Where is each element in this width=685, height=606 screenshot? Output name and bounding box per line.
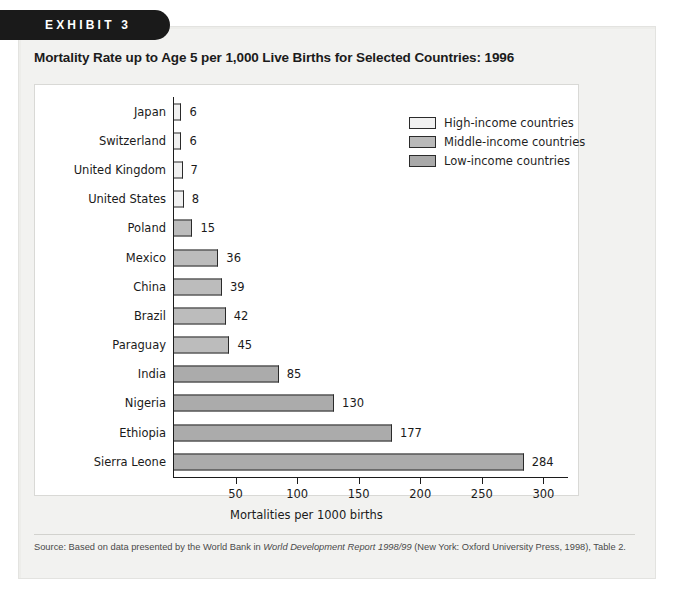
bar-row: United States8 bbox=[35, 185, 580, 214]
source-divider bbox=[34, 534, 635, 535]
bar-row: Brazil42 bbox=[35, 301, 580, 330]
bar bbox=[174, 278, 222, 295]
bar-category-label: Ethiopia bbox=[119, 426, 166, 440]
exhibit-banner: EXHIBIT 3 bbox=[0, 10, 170, 40]
bar-row: Paraguay45 bbox=[35, 331, 580, 360]
bar-row: Japan6 bbox=[35, 97, 580, 126]
bar bbox=[174, 424, 392, 441]
exhibit-page: EXHIBIT 3 Mortality Rate up to Age 5 per… bbox=[0, 0, 685, 606]
bar-category-label: Japan bbox=[134, 105, 166, 119]
bar-value-label: 6 bbox=[189, 134, 196, 148]
bar-value-label: 39 bbox=[230, 280, 245, 294]
x-axis-ticks: 50100150200250300 bbox=[35, 478, 580, 506]
bar-category-label: Switzerland bbox=[99, 134, 166, 148]
bar-row: India85 bbox=[35, 360, 580, 389]
source-prefix: Source: Based on data presented by the W… bbox=[34, 542, 263, 552]
bar-value-label: 15 bbox=[200, 221, 215, 235]
bar bbox=[174, 132, 181, 149]
bar-category-label: China bbox=[133, 280, 166, 294]
bar-category-label: Paraguay bbox=[112, 338, 166, 352]
x-tick-mark bbox=[236, 478, 237, 484]
bar bbox=[174, 191, 184, 208]
bar-category-label: United Kingdom bbox=[74, 163, 166, 177]
bar-value-label: 36 bbox=[226, 251, 241, 265]
bar-category-label: Nigeria bbox=[125, 396, 166, 410]
bar-row: Ethiopia177 bbox=[35, 418, 580, 447]
bar-value-label: 130 bbox=[342, 396, 364, 410]
bar-row: United Kingdom7 bbox=[35, 155, 580, 184]
bar-value-label: 8 bbox=[192, 192, 199, 206]
x-tick-label: 250 bbox=[471, 487, 493, 501]
source-italic-title: World Development Report 1998/99 bbox=[263, 542, 411, 552]
bar-category-label: India bbox=[138, 367, 166, 381]
bar-value-label: 45 bbox=[237, 338, 252, 352]
bar bbox=[174, 103, 181, 120]
bar-category-label: Sierra Leone bbox=[94, 455, 166, 469]
x-tick-label: 50 bbox=[228, 487, 243, 501]
exhibit-banner-label: EXHIBIT 3 bbox=[39, 18, 131, 32]
source-suffix: (New York: Oxford University Press, 1998… bbox=[412, 542, 626, 552]
bar-category-label: Brazil bbox=[134, 309, 166, 323]
bar-category-label: Mexico bbox=[126, 251, 166, 265]
x-tick-mark bbox=[482, 478, 483, 484]
bar-row: Poland15 bbox=[35, 214, 580, 243]
bar-category-label: United States bbox=[88, 192, 166, 206]
x-tick-label: 100 bbox=[286, 487, 308, 501]
bar-value-label: 6 bbox=[189, 105, 196, 119]
bar-value-label: 85 bbox=[287, 367, 302, 381]
bar bbox=[174, 337, 229, 354]
bar bbox=[174, 161, 183, 178]
x-tick-label: 150 bbox=[348, 487, 370, 501]
source-note: Source: Based on data presented by the W… bbox=[34, 541, 644, 554]
bar bbox=[174, 395, 334, 412]
bar-row: Switzerland6 bbox=[35, 126, 580, 155]
chart-title: Mortality Rate up to Age 5 per 1,000 Liv… bbox=[34, 50, 514, 65]
bar-row: China39 bbox=[35, 272, 580, 301]
x-tick-mark bbox=[543, 478, 544, 484]
bar-row: Sierra Leone284 bbox=[35, 447, 580, 476]
x-tick-label: 200 bbox=[409, 487, 431, 501]
bar-series: Japan6Switzerland6United Kingdom7United … bbox=[35, 97, 580, 477]
x-tick-label: 300 bbox=[532, 487, 554, 501]
bar bbox=[174, 249, 218, 266]
bar-category-label: Poland bbox=[128, 221, 166, 235]
x-tick-mark bbox=[359, 478, 360, 484]
bar-value-label: 42 bbox=[234, 309, 249, 323]
bar-value-label: 7 bbox=[191, 163, 198, 177]
plot-canvas: High-income countriesMiddle-income count… bbox=[34, 84, 579, 496]
bar bbox=[174, 453, 524, 470]
bar bbox=[174, 307, 226, 324]
bar-value-label: 177 bbox=[400, 426, 422, 440]
bar bbox=[174, 220, 192, 237]
bar-value-label: 284 bbox=[532, 455, 554, 469]
bar-row: Mexico36 bbox=[35, 243, 580, 272]
x-tick-mark bbox=[420, 478, 421, 484]
x-axis-title: Mortalities per 1000 births bbox=[34, 508, 579, 522]
bar bbox=[174, 366, 279, 383]
bar-row: Nigeria130 bbox=[35, 389, 580, 418]
x-tick-mark bbox=[297, 478, 298, 484]
